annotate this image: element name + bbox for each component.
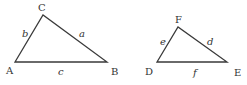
side-label-d: d <box>207 36 213 47</box>
triangle-abc: A B C a b c <box>5 2 118 77</box>
side-label-f: f <box>192 67 199 78</box>
vertex-label-c: C <box>38 2 46 13</box>
similar-triangles-diagram: A B C a b c D E F d e f <box>0 0 247 85</box>
side-label-c: c <box>58 66 64 77</box>
side-label-b: b <box>22 28 28 39</box>
vertex-label-a: A <box>5 65 14 76</box>
triangle-abc-outline <box>15 15 107 62</box>
vertex-label-d: D <box>145 66 153 77</box>
vertex-label-e: E <box>234 67 241 78</box>
side-label-e: e <box>160 36 166 47</box>
vertex-label-f: F <box>175 14 182 25</box>
side-label-a: a <box>79 28 85 39</box>
vertex-label-b: B <box>111 66 118 77</box>
triangle-def: D E F d e f <box>145 14 241 78</box>
triangle-def-outline <box>157 27 227 62</box>
